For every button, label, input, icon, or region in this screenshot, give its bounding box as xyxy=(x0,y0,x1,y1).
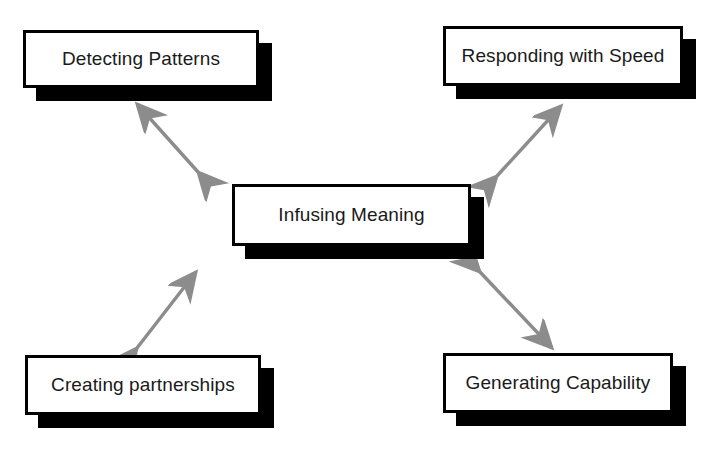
connector-responding-center xyxy=(497,106,561,176)
node-label: Generating Capability xyxy=(466,373,651,394)
node-face: Responding with Speed xyxy=(443,26,683,86)
node-creating-partnerships[interactable]: Creating partnerships xyxy=(25,355,261,415)
connector-detecting-center xyxy=(137,104,198,172)
node-face: Detecting Patterns xyxy=(23,30,259,88)
node-face: Creating partnerships xyxy=(25,355,261,415)
connector-creating-center xyxy=(137,272,196,348)
node-label: Detecting Patterns xyxy=(62,49,220,70)
diagram-canvas: Detecting Patterns Responding with Speed… xyxy=(0,0,713,451)
node-detecting-patterns[interactable]: Detecting Patterns xyxy=(23,30,259,88)
node-responding-with-speed[interactable]: Responding with Speed xyxy=(443,26,683,86)
node-label: Infusing Meaning xyxy=(278,205,424,226)
node-face: Generating Capability xyxy=(443,353,673,413)
connector-generating-center xyxy=(480,272,552,348)
node-infusing-meaning[interactable]: Infusing Meaning xyxy=(232,184,471,246)
node-label: Responding with Speed xyxy=(462,46,665,67)
node-label: Creating partnerships xyxy=(51,375,235,396)
node-face: Infusing Meaning xyxy=(232,184,471,246)
node-generating-capability[interactable]: Generating Capability xyxy=(443,353,673,413)
